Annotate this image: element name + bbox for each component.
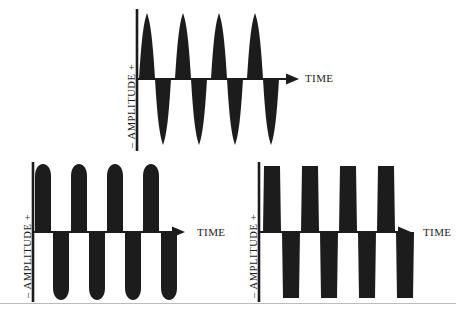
waveform-pointed-sine [134,6,314,154]
waveform-square [256,160,436,305]
chart-panel-rounded-sine: – AMPLITUDE + TIME [0,155,232,305]
x-axis-label-bottom-left: TIME [197,226,225,238]
figure-bottom-rule [0,303,456,304]
chart-panel-square-wave: – AMPLITUDE + TIME [228,155,456,305]
time-axis-arrow-icon [286,74,299,85]
x-axis-label-top: TIME [305,72,333,84]
waveform-rounded-sine [30,160,210,305]
chart-panel-pointed-sine: – AMPLITUDE + TIME [0,0,456,160]
x-axis-label-bottom-right: TIME [423,226,451,238]
